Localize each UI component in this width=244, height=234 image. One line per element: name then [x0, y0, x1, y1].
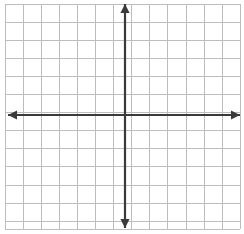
coordinate-plane-figure — [0, 0, 244, 234]
figure-background — [0, 0, 244, 234]
coordinate-grid-svg — [0, 0, 244, 234]
